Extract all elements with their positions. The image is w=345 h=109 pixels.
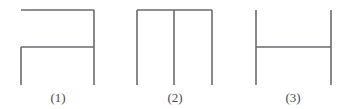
figure-3 — [256, 10, 331, 85]
figure-2-caption: (2) — [155, 91, 195, 104]
figure-1 — [21, 10, 94, 85]
figure-line-group — [21, 10, 331, 85]
figure-1-caption: (1) — [38, 91, 78, 104]
figure-3-caption: (3) — [273, 91, 313, 104]
figure-2 — [137, 10, 212, 85]
figure-panel: (1) (2) (3) — [0, 0, 345, 109]
